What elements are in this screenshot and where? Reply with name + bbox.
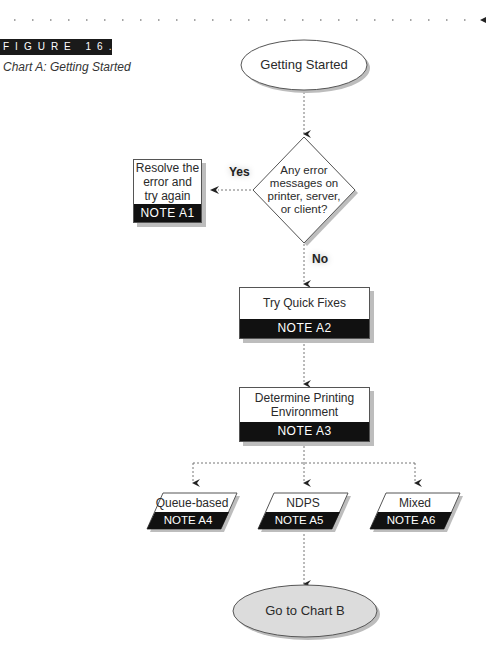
decision-line: or client? bbox=[259, 203, 349, 216]
note-a5-badge: NOTE A5 bbox=[262, 514, 336, 526]
note-a2-badge: NOTE A2 bbox=[240, 319, 369, 338]
determine-line: Determine Printing bbox=[240, 391, 369, 405]
determine-line: Environment bbox=[240, 405, 369, 419]
resolve-line: error and bbox=[134, 175, 201, 189]
decision-line: Any error bbox=[259, 164, 349, 177]
start-node-label: Getting Started bbox=[241, 57, 367, 72]
ndps-label: NDPS bbox=[266, 496, 340, 510]
determine-environment-box: Determine Printing Environment NOTE A3 bbox=[239, 387, 370, 442]
decision-line: printer, server, bbox=[259, 190, 349, 203]
note-a1-badge: NOTE A1 bbox=[134, 204, 201, 222]
resolve-line: Resolve the bbox=[134, 161, 201, 175]
quick-fixes-label: Try Quick Fixes bbox=[240, 288, 369, 310]
note-a4-badge: NOTE A4 bbox=[151, 514, 225, 526]
note-a3-badge: NOTE A3 bbox=[240, 422, 369, 441]
queue-based-label: Queue-based bbox=[155, 496, 229, 510]
quick-fixes-box: Try Quick Fixes NOTE A2 bbox=[239, 287, 370, 339]
decision-line: messages on bbox=[259, 177, 349, 190]
end-node-label: Go to Chart B bbox=[233, 603, 377, 618]
resolve-line: try again bbox=[134, 189, 201, 203]
resolve-text: Resolve the error and try again bbox=[134, 160, 201, 203]
determine-text: Determine Printing Environment bbox=[240, 388, 369, 419]
mixed-label: Mixed bbox=[378, 496, 452, 510]
note-a6-badge: NOTE A6 bbox=[374, 514, 448, 526]
arrow-head-icon bbox=[210, 186, 219, 194]
decision-node-text: Any error messages on printer, server, o… bbox=[259, 164, 349, 216]
resolve-error-box: Resolve the error and try again NOTE A1 bbox=[133, 159, 202, 223]
no-label: No bbox=[312, 252, 328, 266]
yes-label: Yes bbox=[229, 165, 250, 179]
